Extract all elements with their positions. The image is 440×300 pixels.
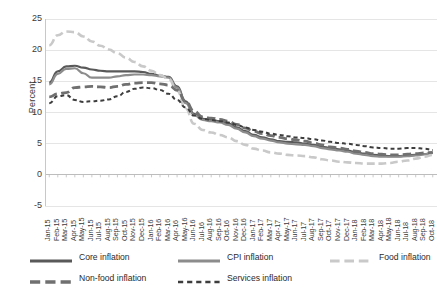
legend-swatch-non-food-inflation: [28, 273, 74, 283]
y-tick-label: -5: [16, 200, 42, 210]
legend-label-non-food-inflation: Non-food inflation: [79, 273, 146, 283]
x-tick-label: Apr-17: [273, 220, 282, 241]
y-tick-label: 20: [16, 44, 42, 54]
series-line-core-inflation: [49, 66, 432, 156]
x-tick-label: Oct-18: [427, 220, 436, 241]
legend-swatch-services-inflation: [176, 273, 222, 283]
y-tick-label: 0: [16, 169, 42, 179]
legend-label-food-inflation: Food inflation: [379, 252, 431, 262]
legend-label-cpi-inflation: CPI inflation: [227, 252, 273, 262]
x-tick-label: Mar-15: [60, 219, 69, 241]
y-tick-label: 5: [16, 138, 42, 148]
series-line-services-inflation: [49, 88, 432, 150]
x-tick-label: Oct-16: [222, 220, 231, 241]
x-tick-label: Jan-18: [350, 220, 359, 241]
legend-item-core-inflation[interactable]: Core inflation: [28, 248, 130, 266]
x-tick-label: Jul-18: [401, 222, 410, 241]
legend-swatch-cpi-inflation: [176, 252, 222, 262]
legend-label-services-inflation: Services inflation: [227, 273, 292, 283]
y-tick-label: 25: [16, 13, 42, 23]
y-tick-label: 15: [16, 75, 42, 85]
x-tick-label: May-18: [384, 218, 393, 241]
x-tick-label: Feb-17: [256, 219, 265, 241]
legend-label-core-inflation: Core inflation: [79, 252, 130, 262]
y-axis-ticks: 2520151050-5: [14, 0, 42, 230]
x-axis-ticks: Jan-15Feb-15Mar-15Apr-15May-15Jun-15Jul-…: [45, 181, 437, 241]
legend-item-cpi-inflation[interactable]: CPI inflation: [176, 248, 273, 266]
x-tick-label: Dec-15: [137, 218, 146, 241]
x-tick-label: Feb-16: [154, 219, 163, 241]
x-tick-label: Apr-16: [171, 220, 180, 241]
legend-swatch-food-inflation: [328, 252, 374, 262]
legend-swatch-core-inflation: [28, 252, 74, 262]
x-tick-label: Aug-16: [205, 218, 214, 241]
inflation-line-chart: Percent 2520151050-5 Jan-15Feb-15Mar-15A…: [0, 0, 440, 300]
x-tick-label: Jun-16: [188, 220, 197, 241]
legend-row: Non-food inflationServices inflation: [28, 269, 428, 287]
x-tick-label: Mar-18: [367, 219, 376, 241]
y-tick-label: 10: [16, 107, 42, 117]
legend-row: Core inflationCPI inflationFood inflatio…: [28, 248, 428, 266]
legend-item-non-food-inflation[interactable]: Non-food inflation: [28, 269, 146, 287]
x-tick-label: Sep-18: [418, 218, 427, 241]
x-tick-label: Jan-15: [43, 220, 52, 241]
legend-item-food-inflation[interactable]: Food inflation: [328, 248, 431, 266]
x-tick-label: Dec-16: [239, 218, 248, 241]
x-tick-label: May-15: [77, 218, 86, 241]
x-tick-label: Nov-17: [333, 218, 342, 241]
chart-legend: Core inflationCPI inflationFood inflatio…: [28, 248, 428, 294]
legend-item-services-inflation[interactable]: Services inflation: [176, 269, 292, 287]
